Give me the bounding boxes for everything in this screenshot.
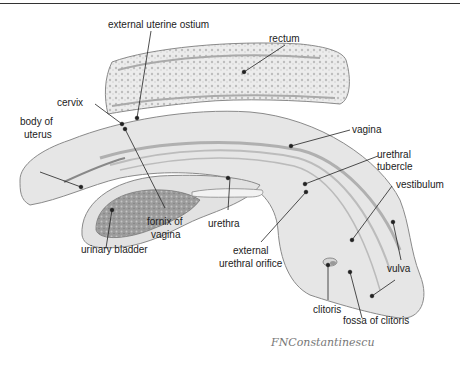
label-fossa-of-clitoris: fossa of clitoris bbox=[343, 315, 409, 326]
label-cervix: cervix bbox=[57, 97, 83, 108]
label-external-urethral-orifice-2: urethral orifice bbox=[219, 258, 283, 269]
label-vestibulum: vestibulum bbox=[396, 179, 444, 190]
label-urethral-tubercle-1: urethral bbox=[377, 149, 411, 160]
artist-signature: FNConstantinescu bbox=[270, 336, 375, 349]
label-urethral-tubercle-2: tubercle bbox=[377, 161, 413, 172]
label-clitoris: clitoris bbox=[313, 304, 341, 315]
uterus-vagina-shape bbox=[20, 111, 424, 318]
urethra-shape bbox=[192, 189, 263, 198]
label-vagina: vagina bbox=[352, 124, 382, 135]
label-urethra: urethra bbox=[208, 218, 240, 229]
label-body-of-uterus-2: uterus bbox=[24, 129, 52, 140]
label-rectum: rectum bbox=[269, 33, 300, 44]
label-urinary-bladder: urinary bladder bbox=[81, 244, 148, 255]
label-fornix-of-vagina-1: fornix of bbox=[147, 216, 183, 227]
rectum-shape bbox=[105, 43, 349, 114]
anatomy-diagram: external uterine ostium rectum cervix bo… bbox=[0, 0, 460, 365]
label-body-of-uterus-1: body of bbox=[20, 116, 53, 127]
label-external-urethral-orifice-1: external bbox=[233, 245, 269, 256]
label-fornix-of-vagina-2: vagina bbox=[151, 229, 181, 240]
label-vulva: vulva bbox=[387, 263, 411, 274]
label-external-uterine-ostium: external uterine ostium bbox=[108, 19, 209, 30]
